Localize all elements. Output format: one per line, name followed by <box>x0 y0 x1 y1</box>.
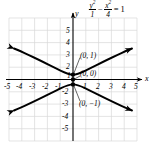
point-0-1 <box>71 72 75 76</box>
y-tick-4: 4 <box>66 39 70 47</box>
y-tick-5: 5 <box>66 27 70 35</box>
y-tick-neg3: -3 <box>62 100 68 108</box>
annotation-0-neg1: (0, −1) <box>79 100 100 108</box>
equation-fraction-x: x2 4 <box>104 0 112 18</box>
equation-numerator-x: x2 <box>104 0 112 10</box>
x-tick-3: 3 <box>109 83 113 91</box>
equation-fraction-y: y2 1 <box>89 0 97 18</box>
x-tick-5: 5 <box>134 83 138 91</box>
equation-label: y2 1 − x2 4 = 1 <box>88 0 154 18</box>
equation-numerator-y: y2 <box>89 0 97 10</box>
y-tick-neg4: -4 <box>62 113 68 121</box>
equation-denominator-1: 1 <box>91 10 95 18</box>
x-tick-neg1: -1 <box>55 83 61 91</box>
graph-canvas <box>0 0 156 146</box>
x-tick-4: 4 <box>122 83 126 91</box>
y-tick-1: 1 <box>67 72 71 80</box>
x-tick-1: 1 <box>83 83 87 91</box>
y-axis-label: y <box>75 10 79 18</box>
y-tick-3: 3 <box>66 51 70 59</box>
annotation-0-0: (0, 0) <box>80 70 96 78</box>
y-tick-neg5: -5 <box>62 125 68 133</box>
hyperbola-figure: y2 1 − x2 4 = 1 x y -5 -4 -3 -2 -1 1 2 3… <box>0 0 156 146</box>
annotation-0-1: (0, 1) <box>80 52 96 60</box>
point-0-0 <box>71 77 75 81</box>
x-tick-neg2: -2 <box>42 83 48 91</box>
x-tick-2: 2 <box>96 83 100 91</box>
x-tick-neg4: -4 <box>16 83 22 91</box>
x-tick-neg5: -5 <box>4 83 10 91</box>
equation-equals: = 1 <box>114 5 125 14</box>
equation-denominator-4: 4 <box>106 10 110 18</box>
x-axis-label: x <box>145 75 149 83</box>
point-0-neg1 <box>71 82 75 86</box>
y-tick-neg2: -2 <box>62 88 68 96</box>
equation-operator: − <box>98 5 103 14</box>
y-tick-2: 2 <box>66 63 70 71</box>
x-tick-neg3: -3 <box>29 83 35 91</box>
